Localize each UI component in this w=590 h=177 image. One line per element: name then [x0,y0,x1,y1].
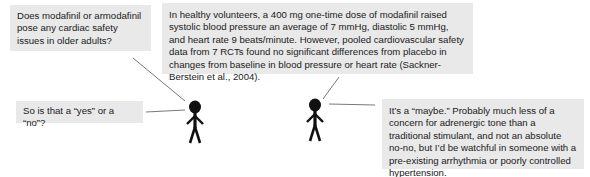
stick-figure-left-icon [183,100,207,146]
connector-b4-to-right-person [329,104,375,105]
stick-figure-right-icon [303,98,327,144]
question-bubble-1: Does modafinil or armodafinil pose any c… [10,5,151,51]
question-bubble-2: So is that a “yes” or a “no”? [16,101,143,123]
connector-b2-to-right-person [323,77,339,99]
answer-bubble-1: In healthy volunteers, a 400 mg one-time… [162,3,473,74]
answer-bubble-2: It’s a “maybe.” Probably much less of a … [382,99,584,169]
connector-b3-to-left-person [146,110,185,112]
